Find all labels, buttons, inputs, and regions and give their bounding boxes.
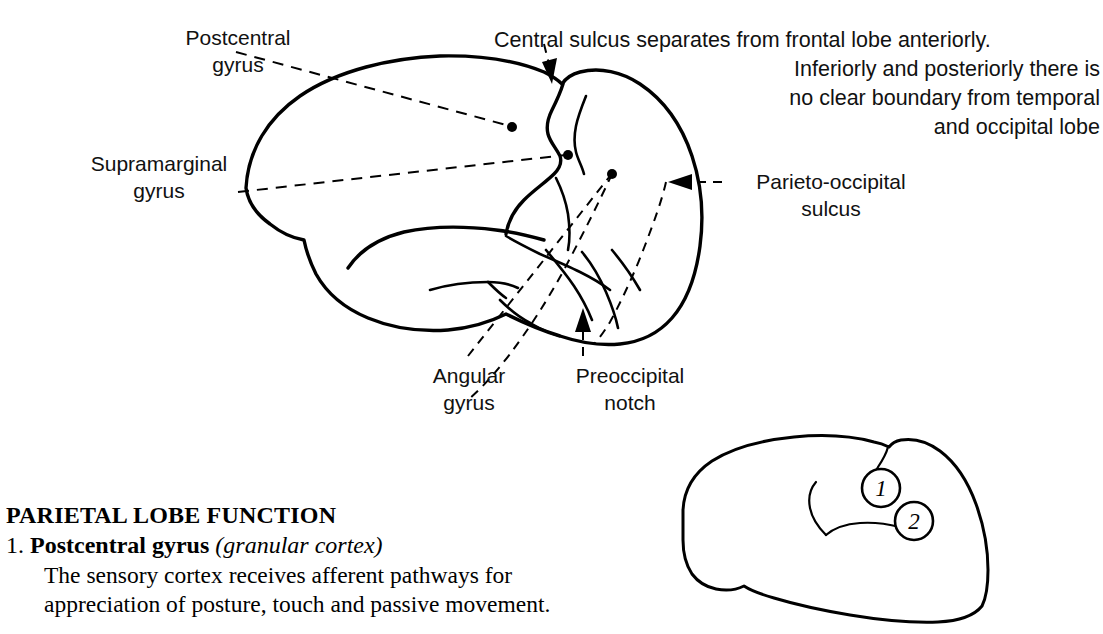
label-parieto-occipital-sulcus: Parieto-occipital sulcus bbox=[726, 168, 936, 222]
section-heading: PARIETAL LOBE FUNCTION bbox=[6, 500, 646, 530]
inset-marker-1-circle bbox=[862, 469, 900, 507]
note-line-4: and occipital lobe bbox=[494, 113, 1102, 142]
inset-brain-diagram: 1 2 bbox=[683, 436, 988, 623]
body-line-1: The sensory cortex receives afferent pat… bbox=[44, 561, 646, 590]
angular-gyrus-sulci bbox=[546, 250, 640, 328]
leader-angular-gyrus bbox=[468, 169, 617, 356]
leader-supramarginal-gyrus bbox=[238, 150, 573, 192]
item-parenthetical: (granular cortex) bbox=[215, 532, 382, 558]
lateral-fissure-line bbox=[348, 227, 544, 298]
label-preoccipital-notch: Preoccipital notch bbox=[556, 362, 704, 416]
item-number: 1. bbox=[6, 532, 24, 558]
label-angular-gyrus: Angular gyrus bbox=[404, 362, 534, 416]
intraparietal-sulcus-line bbox=[506, 178, 610, 290]
inset-marker-2-label: 2 bbox=[908, 509, 920, 534]
item-body-text: The sensory cortex receives afferent pat… bbox=[6, 561, 646, 619]
body-line-2: appreciation of posture, touch and passi… bbox=[44, 590, 646, 619]
leader-preoccipital-notch bbox=[575, 308, 591, 356]
leader-parieto-occipital-sulcus bbox=[668, 174, 722, 190]
note-line-3: no clear boundary from temporal bbox=[494, 84, 1102, 113]
label-postcentral-gyrus: Postcentral gyrus bbox=[148, 24, 328, 78]
figure-page: 1 2 Postcentral gyrus Supramarginal gyru… bbox=[0, 0, 1103, 634]
note-line-1: Central sulcus separates from frontal lo… bbox=[494, 26, 1102, 55]
label-supramarginal-gyrus: Supramarginal gyrus bbox=[44, 150, 274, 204]
parieto-occipital-dashed-boundary bbox=[594, 182, 666, 344]
note-line-2: Inferiorly and posteriorly there is bbox=[494, 55, 1102, 84]
inferior-temporal-sulci bbox=[500, 300, 560, 336]
parietal-lobe-function-section: PARIETAL LOBE FUNCTION 1. Postcentral gy… bbox=[6, 500, 646, 619]
item-term: Postcentral gyrus bbox=[30, 532, 209, 558]
inset-marker-1-label: 1 bbox=[875, 476, 887, 501]
inset-marker-2-circle bbox=[895, 502, 933, 540]
note-central-sulcus: Central sulcus separates from frontal lo… bbox=[494, 26, 1102, 142]
numbered-item-1: 1. Postcentral gyrus (granular cortex) bbox=[6, 530, 646, 561]
